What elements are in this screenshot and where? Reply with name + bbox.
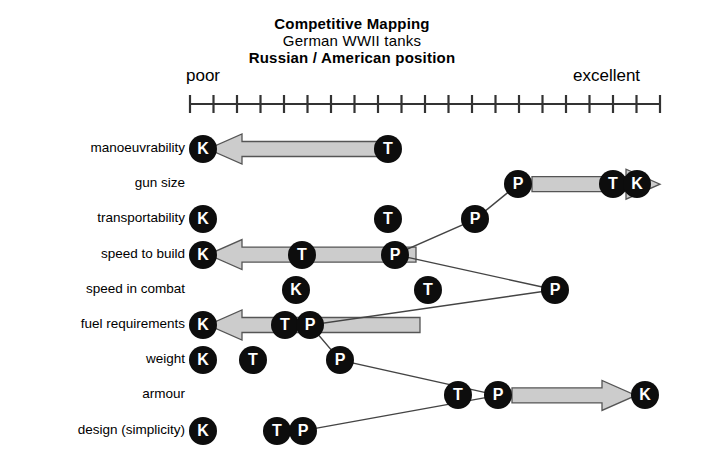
marker-p[interactable]: P (504, 170, 532, 198)
row-label-fuel-requirements: fuel requirements (81, 316, 185, 331)
marker-k[interactable]: K (189, 135, 217, 163)
marker-k[interactable]: K (189, 241, 217, 269)
marker-t[interactable]: T (374, 135, 402, 163)
marker-k[interactable]: K (623, 170, 651, 198)
row-label-manoeuvrability: manoeuvrability (90, 140, 185, 155)
marker-p[interactable]: P (326, 346, 354, 374)
row-label-speed-to-build: speed to build (101, 246, 185, 261)
marker-p[interactable]: P (381, 241, 409, 269)
marker-k[interactable]: K (189, 346, 217, 374)
marker-t[interactable]: T (271, 311, 299, 339)
page-title: Competitive Mapping (0, 16, 704, 33)
row-label-gun-size: gun size (135, 175, 185, 190)
marker-k[interactable]: K (189, 311, 217, 339)
marker-t[interactable]: T (263, 417, 291, 445)
chart-title-block: Competitive Mapping German WWII tanks Ru… (0, 16, 704, 66)
row-label-armour: armour (142, 386, 185, 401)
row-label-weight: weight (146, 351, 185, 366)
row-label-design-simplicity: design (simplicity) (78, 422, 185, 437)
row-label-speed-in-combat: speed in combat (86, 281, 185, 296)
marker-t[interactable]: T (414, 276, 442, 304)
p-position-connector-line (303, 184, 555, 430)
marker-t[interactable]: T (239, 346, 267, 374)
chart-subtitle-secondary: Russian / American position (0, 50, 704, 67)
marker-t[interactable]: T (288, 241, 316, 269)
row-label-transportability: transportability (97, 210, 185, 225)
marker-p[interactable]: P (289, 417, 317, 445)
marker-p[interactable]: P (296, 311, 324, 339)
chart-subtitle: German WWII tanks (0, 33, 704, 50)
marker-k[interactable]: K (282, 276, 310, 304)
marker-p[interactable]: P (541, 276, 569, 304)
marker-k[interactable]: K (189, 417, 217, 445)
scale-label-high: excellent (573, 66, 640, 86)
scale-label-low: poor (186, 66, 220, 86)
competitive-mapping-chart: Competitive Mapping German WWII tanks Ru… (0, 0, 704, 473)
